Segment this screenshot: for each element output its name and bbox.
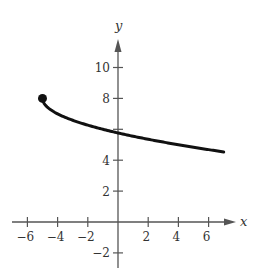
x-tick-label: −6	[17, 230, 35, 244]
y-tick-label: 10	[95, 61, 110, 75]
closed-endpoint	[38, 94, 47, 103]
x-axis-arrow-icon	[224, 219, 236, 226]
y-axis-arrow-icon	[115, 39, 122, 52]
y-tick-label: 4	[102, 154, 110, 168]
y-tick-label: 2	[102, 185, 110, 199]
data-curve	[43, 98, 224, 152]
y-tick-label: −2	[92, 246, 110, 260]
y-axis-label: y	[114, 18, 123, 33]
x-tick-label: −2	[77, 230, 95, 244]
chart: −6−4−2246−224810 x y	[0, 0, 253, 277]
x-tick-label: −4	[47, 230, 65, 244]
x-tick-label: 6	[203, 230, 211, 244]
x-tick-label: 4	[173, 230, 181, 244]
x-axis-label: x	[240, 214, 248, 229]
ticks: −6−4−2246−224810	[17, 61, 211, 260]
y-tick-label: 8	[102, 92, 110, 106]
x-tick-label: 2	[142, 230, 150, 244]
